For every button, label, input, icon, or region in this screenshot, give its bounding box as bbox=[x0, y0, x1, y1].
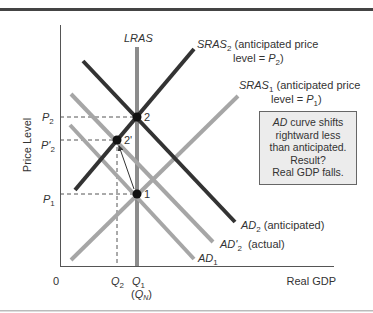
point-2-prime-label: 2' bbox=[124, 134, 132, 146]
ad1-label: AD1 bbox=[197, 252, 218, 267]
x-tick-q2: Q2 bbox=[111, 275, 125, 290]
bottom-rule bbox=[0, 310, 373, 312]
sras2-label-line2: level = P2) bbox=[233, 52, 284, 67]
note-line2: rightward less bbox=[260, 129, 356, 142]
lras-label: LRAS bbox=[124, 32, 153, 44]
point-1 bbox=[133, 190, 142, 199]
ad2-prime-label: AD'2 (actual) bbox=[219, 238, 285, 253]
point-1-label: 1 bbox=[144, 188, 150, 200]
sras1-label-line2: level = P1) bbox=[271, 93, 322, 108]
sras1-label: SRAS1 (anticipated price bbox=[239, 79, 360, 94]
ad2-label: AD2 (anticipated) bbox=[240, 219, 324, 234]
annotation-box: AD curve shifts rightward less than anti… bbox=[259, 111, 357, 185]
point-2 bbox=[133, 113, 142, 122]
point-2-label: 2 bbox=[144, 111, 150, 123]
y-tick-p2: P2 bbox=[42, 111, 54, 126]
top-rule bbox=[0, 8, 373, 11]
note-line1: curve shifts bbox=[287, 116, 343, 128]
y-tick-p1: P1 bbox=[43, 193, 55, 208]
point-2-prime bbox=[113, 136, 122, 145]
y-tick-p2-prime: P'2 bbox=[41, 139, 55, 154]
x-axis-title: Real GDP bbox=[286, 275, 336, 287]
note-line3: than anticipated. bbox=[260, 141, 356, 154]
note-line4: Result? bbox=[260, 154, 356, 167]
ad2-curve bbox=[83, 61, 235, 222]
note-ad-em: AD bbox=[273, 116, 288, 128]
y-axis-title: Price Level bbox=[21, 118, 33, 172]
origin-label: 0 bbox=[53, 275, 59, 287]
note-line5: Real GDP falls. bbox=[260, 166, 356, 179]
x-tick-qn: (QN) bbox=[131, 288, 152, 301]
sras2-label: SRAS2 (anticipated price bbox=[197, 38, 318, 53]
